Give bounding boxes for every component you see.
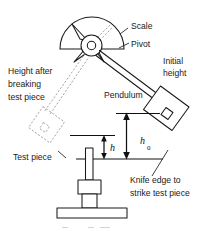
label-knife-edge-line1: Knife edge to bbox=[130, 175, 181, 185]
label-h0-symbol: h bbox=[140, 135, 145, 146]
charpy-impact-test-diagram: Scale Pivot Pendulum Initial height Heig… bbox=[0, 0, 215, 230]
label-pendulum: Pendulum bbox=[104, 90, 143, 100]
label-h-symbol: h bbox=[110, 142, 115, 153]
label-h0-subscript: 0 bbox=[147, 144, 151, 152]
label-knife-edge-line2: strike test piece bbox=[130, 188, 190, 198]
anvil-support bbox=[78, 180, 101, 208]
leader-test-piece bbox=[58, 151, 66, 158]
pendulum-arm-after-break bbox=[44, 53, 90, 115]
label-test-piece: Test piece bbox=[13, 152, 52, 162]
label-height-after-line1: Height after bbox=[8, 66, 53, 76]
label-initial-height-line2: height bbox=[163, 68, 187, 78]
label-height-after-line2: breaking bbox=[8, 79, 41, 89]
machine-base bbox=[57, 208, 127, 218]
pendulum-hammer-raised bbox=[144, 86, 190, 131]
leader-knife-edge bbox=[152, 150, 168, 176]
leader-scale bbox=[120, 28, 128, 34]
label-initial-height-line1: Initial bbox=[163, 56, 183, 66]
test-piece-specimen bbox=[86, 148, 94, 180]
label-scale: Scale bbox=[131, 21, 153, 31]
label-height-after-line3: test piece bbox=[8, 92, 45, 102]
pendulum-hammer-after-break bbox=[29, 107, 65, 144]
charpy-diagram-canvas: Scale Pivot Pendulum Initial height Heig… bbox=[0, 0, 215, 230]
label-pivot: Pivot bbox=[131, 39, 151, 49]
pivot-hub bbox=[81, 35, 102, 56]
